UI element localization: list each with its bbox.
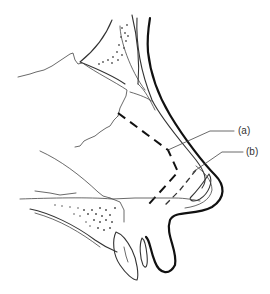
leader-line-b [193, 152, 243, 172]
bone-stipple-top [98, 24, 129, 65]
label-a: (a) [238, 125, 250, 136]
alar-cartilage [185, 166, 212, 208]
maxilla-palate [30, 204, 117, 252]
nasal-bone [80, 15, 145, 90]
label-b: (b) [246, 146, 258, 157]
upper-lip [140, 238, 147, 267]
maxilla-frontal-process [18, 53, 155, 147]
bone-stipple-palate [54, 204, 116, 231]
leader-line-a [168, 131, 234, 150]
diagram-canvas: (a) (b) [0, 0, 270, 294]
nose-anatomy-diagram: (a) (b) [0, 0, 270, 294]
septum-base [20, 151, 200, 222]
nasal-cartilage [130, 18, 205, 188]
incisor-tooth [114, 232, 138, 280]
